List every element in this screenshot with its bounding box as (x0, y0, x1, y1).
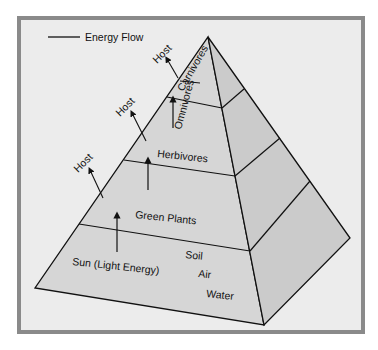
level-soil: Soil (185, 248, 204, 262)
host-label: Host (150, 42, 174, 66)
energy-pyramid: Energy Flow Host Host Host Carnivores Om… (0, 0, 378, 350)
level-air: Air (198, 267, 213, 280)
host-arrow (167, 59, 178, 78)
host-label: Host (71, 151, 95, 175)
legend-label: Energy Flow (85, 31, 144, 43)
legend: Energy Flow (48, 31, 144, 43)
host-arrow (90, 170, 103, 198)
